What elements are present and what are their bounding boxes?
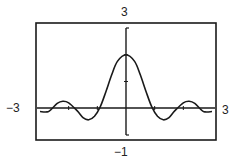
ymin-label: −1 xyxy=(114,146,128,158)
ymax-label: 3 xyxy=(121,6,128,18)
xmin-label: −3 xyxy=(6,102,20,114)
graph-window xyxy=(0,0,233,162)
calculator-graph-figure: ) 3 −3 3 −1 xyxy=(0,0,233,162)
xmax-label: 3 xyxy=(222,104,229,116)
